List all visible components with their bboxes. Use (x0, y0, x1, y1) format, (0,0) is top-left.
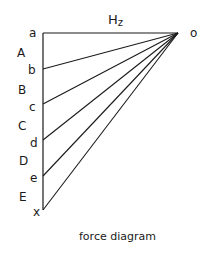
ray-d (43, 33, 178, 140)
ray-c (43, 33, 178, 104)
segment-label-B: B (18, 83, 26, 97)
point-label-e: e (30, 171, 37, 185)
segment-label-D: D (19, 154, 28, 168)
segment-label-E: E (19, 190, 27, 204)
force-diagram: a b c d e x A B C D E Hz o force diagram (0, 0, 202, 253)
pole-label-o: o (190, 26, 197, 40)
segment-label-A: A (17, 46, 26, 60)
point-label-a: a (29, 26, 36, 40)
point-label-d: d (30, 136, 38, 150)
ray-x (43, 33, 178, 210)
point-label-c: c (29, 100, 36, 114)
point-label-b: b (28, 63, 36, 77)
caption: force diagram (79, 230, 156, 243)
ray-e (43, 33, 178, 176)
ray-b (43, 33, 178, 69)
segment-label-C: C (18, 119, 26, 133)
horizontal-force-label: Hz (108, 12, 123, 28)
point-label-x: x (33, 205, 40, 219)
